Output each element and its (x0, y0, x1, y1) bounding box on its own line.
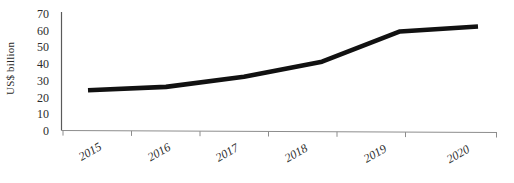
x-tick-label-2018: 2018 (282, 141, 310, 165)
y-tick-label-50: 50 (37, 40, 49, 54)
x-axis-line (62, 131, 498, 133)
y-tick-label-40: 40 (37, 57, 49, 71)
x-tick-label-2015: 2015 (76, 139, 104, 163)
y-tick-label-30: 30 (37, 74, 49, 88)
y-tick-label-10: 10 (37, 107, 49, 121)
line-chart: US$ billion 70 60 50 40 30 20 10 0 2015 … (0, 0, 514, 183)
y-tick-label-60: 60 (37, 24, 49, 38)
y-tick-label-70: 70 (37, 7, 49, 21)
y-axis-title: US$ billion (4, 41, 16, 95)
x-tick-label-2016: 2016 (145, 140, 173, 164)
y-tick-label-20: 20 (37, 91, 49, 105)
y-tick-label-0: 0 (43, 124, 49, 138)
x-tick-label-2020: 2020 (444, 142, 472, 166)
chart-canvas: US$ billion 70 60 50 40 30 20 10 0 2015 … (0, 0, 514, 183)
x-tick-label-2019: 2019 (361, 141, 389, 165)
data-series-line (88, 26, 478, 90)
x-tick-label-2017: 2017 (213, 140, 242, 165)
